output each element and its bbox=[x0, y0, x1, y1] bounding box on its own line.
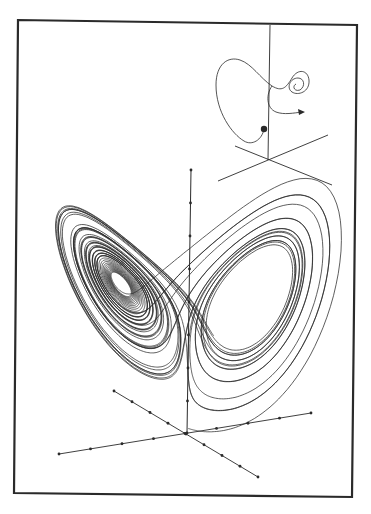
tick-mark bbox=[58, 453, 61, 456]
figure-canvas bbox=[0, 0, 371, 514]
tick-mark bbox=[278, 417, 281, 420]
arrowhead-icon bbox=[298, 109, 305, 115]
tick-mark bbox=[188, 301, 191, 304]
tick-mark bbox=[189, 202, 192, 205]
main-attractor-plot bbox=[56, 169, 342, 479]
tick-mark bbox=[113, 390, 116, 393]
tick-mark bbox=[215, 427, 218, 430]
tick-mark bbox=[190, 169, 193, 172]
tick-mark bbox=[167, 422, 170, 425]
tick-mark bbox=[310, 412, 313, 415]
tick-mark bbox=[121, 442, 124, 445]
tick-mark bbox=[152, 437, 155, 440]
tick-mark bbox=[189, 235, 192, 238]
tick-mark bbox=[257, 476, 260, 479]
start-point-dot bbox=[261, 126, 267, 132]
tick-mark bbox=[187, 367, 190, 370]
lorenz-attractor-figure bbox=[0, 0, 371, 514]
tick-mark bbox=[89, 447, 92, 450]
tick-mark bbox=[221, 454, 224, 457]
tick-mark bbox=[131, 400, 134, 403]
tick-mark bbox=[239, 465, 242, 468]
inset-axis-2 bbox=[235, 146, 332, 185]
inset-trajectory-diagram bbox=[216, 25, 332, 185]
lorenz-attractor-curve bbox=[56, 178, 342, 431]
tick-mark bbox=[186, 400, 189, 403]
tick-mark bbox=[187, 334, 190, 337]
axis-tick-marks bbox=[58, 169, 313, 479]
tick-mark bbox=[188, 268, 191, 271]
tick-mark bbox=[203, 443, 206, 446]
tick-mark bbox=[186, 432, 189, 435]
tick-mark bbox=[247, 422, 250, 425]
inset-axis-1 bbox=[218, 135, 328, 181]
tick-mark bbox=[149, 411, 152, 414]
